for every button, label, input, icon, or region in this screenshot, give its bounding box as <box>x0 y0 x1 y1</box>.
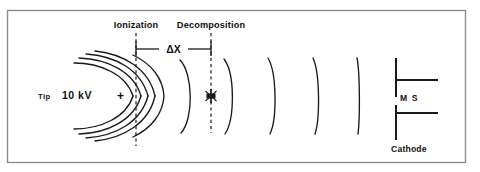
field-arc-5 <box>180 60 190 133</box>
figure-container: ΔX Ionization Decomposition Tip 10 kV + … <box>0 0 480 172</box>
field-arc-9 <box>357 58 359 134</box>
ms-label: M S <box>400 93 419 103</box>
tip-polarity-label: + <box>117 89 124 103</box>
field-arc-6 <box>224 59 232 134</box>
tip-voltage-label: 10 kV <box>62 89 92 101</box>
cathode-label: Cathode <box>391 144 427 154</box>
field-arc-8 <box>313 58 319 134</box>
delta-x-label: ΔX <box>166 43 181 55</box>
decomposition-label: Decomposition <box>177 20 246 30</box>
tip-label: Tip <box>38 92 50 101</box>
ionization-label: Ionization <box>114 20 159 30</box>
schematic-svg: ΔX Ionization Decomposition Tip 10 kV + … <box>0 0 480 172</box>
field-arc-7 <box>268 58 275 134</box>
decomposition-event-marker <box>206 89 217 103</box>
